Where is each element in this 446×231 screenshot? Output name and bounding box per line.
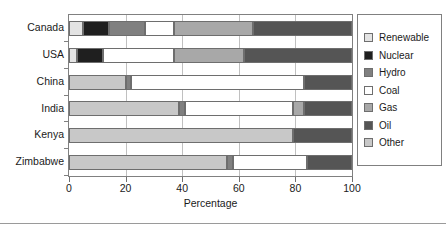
value-tick-label: 80 <box>290 182 302 194</box>
bar-row <box>69 15 352 42</box>
bar-row <box>69 69 352 96</box>
legend-item-other[interactable]: Other <box>364 134 404 151</box>
bar-segment-oil[interactable] <box>253 21 352 36</box>
bar-segment-nuclear[interactable] <box>83 21 108 36</box>
stacked-bar-chart: CanadaUSAChinaIndiaKenyaZimbabwe 0204060… <box>0 0 446 231</box>
bar-segment-renewable[interactable] <box>69 48 77 63</box>
category-label-kenya: Kenya <box>0 121 64 148</box>
bar-segment-oil[interactable] <box>244 48 352 63</box>
bar-segment-gas[interactable] <box>293 101 304 116</box>
category-label-usa: USA <box>0 41 64 68</box>
legend-label: Hydro <box>379 67 406 78</box>
value-tick-label: 40 <box>176 182 188 194</box>
bar-segment-coal[interactable] <box>233 155 307 170</box>
bar-segment-coal[interactable] <box>103 48 174 63</box>
legend-label: Renewable <box>379 32 429 43</box>
bar-segment-coal[interactable] <box>185 101 293 116</box>
legend-swatch-icon <box>364 121 373 130</box>
legend-swatch-icon <box>364 33 373 42</box>
bar-segment-other[interactable] <box>69 155 227 170</box>
bar-segment-coal[interactable] <box>131 75 304 90</box>
bar-rows <box>69 15 352 176</box>
legend-swatch-icon <box>364 51 373 60</box>
bar-segment-nuclear[interactable] <box>77 48 102 63</box>
legend-item-coal[interactable]: Coal <box>364 82 400 99</box>
x-axis-title: Percentage <box>68 197 353 209</box>
category-axis-labels: CanadaUSAChinaIndiaKenyaZimbabwe <box>0 14 64 177</box>
category-label-china: China <box>0 68 64 95</box>
bar-segment-renewable[interactable] <box>69 21 83 36</box>
bar-row <box>69 42 352 69</box>
bar-segment-other[interactable] <box>69 128 293 143</box>
bar-segment-oil[interactable] <box>304 101 352 116</box>
legend-swatch-icon <box>364 68 373 77</box>
bar-row <box>69 149 352 176</box>
category-label-zimbabwe: Zimbabwe <box>0 148 64 175</box>
value-tick-label: 60 <box>233 182 245 194</box>
legend-label: Oil <box>379 120 391 131</box>
stacked-bar[interactable] <box>69 21 352 36</box>
legend-label: Coal <box>379 85 400 96</box>
legend-swatch-icon <box>364 138 373 147</box>
stacked-bar[interactable] <box>69 128 352 143</box>
legend-swatch-icon <box>364 103 373 112</box>
value-tick-label: 100 <box>343 182 361 194</box>
legend-item-oil[interactable]: Oil <box>364 117 391 134</box>
bar-segment-oil[interactable] <box>307 155 352 170</box>
legend: RenewableNuclearHydroCoalGasOilOther <box>357 14 442 166</box>
legend-label: Other <box>379 137 404 148</box>
category-label-india: India <box>0 95 64 122</box>
bar-segment-oil[interactable] <box>304 75 352 90</box>
legend-item-renewable[interactable]: Renewable <box>364 29 429 46</box>
value-axis-tick-labels: 020406080100 <box>68 182 353 196</box>
bar-segment-other[interactable] <box>69 75 126 90</box>
value-tick-label: 20 <box>120 182 132 194</box>
bar-segment-hydro[interactable] <box>109 21 146 36</box>
legend-item-hydro[interactable]: Hydro <box>364 64 406 81</box>
bottom-divider <box>0 223 446 224</box>
bar-segment-oil[interactable] <box>293 128 352 143</box>
legend-label: Nuclear <box>379 50 413 61</box>
legend-label: Gas <box>379 102 397 113</box>
bar-segment-gas[interactable] <box>174 48 245 63</box>
stacked-bar[interactable] <box>69 48 352 63</box>
plot-area <box>68 14 353 177</box>
category-label-canada: Canada <box>0 14 64 41</box>
stacked-bar[interactable] <box>69 155 352 170</box>
legend-item-gas[interactable]: Gas <box>364 99 397 116</box>
legend-swatch-icon <box>364 86 373 95</box>
stacked-bar[interactable] <box>69 101 352 116</box>
value-tick-label: 0 <box>66 182 72 194</box>
bar-segment-gas[interactable] <box>174 21 253 36</box>
bar-row <box>69 96 352 123</box>
stacked-bar[interactable] <box>69 75 352 90</box>
bar-row <box>69 122 352 149</box>
bar-segment-coal[interactable] <box>145 21 173 36</box>
legend-item-nuclear[interactable]: Nuclear <box>364 47 413 64</box>
bar-segment-other[interactable] <box>69 101 179 116</box>
